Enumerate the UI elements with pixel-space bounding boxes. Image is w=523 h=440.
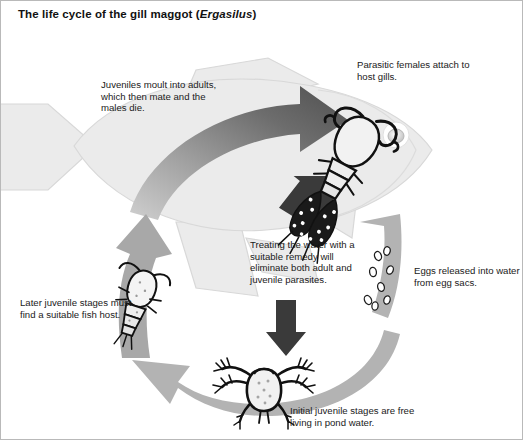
treatment-arrow-down-shape xyxy=(266,300,306,356)
egg xyxy=(369,267,377,277)
label-juveniles-moult: Juveniles moult into adults, which then … xyxy=(101,79,231,114)
label-treating-the-water: Treating the water with a suitable remed… xyxy=(250,239,362,285)
label-eggs-released: Eggs released into water from egg sacs. xyxy=(414,265,523,288)
label-parasitic-females-attach: Parasitic females attach to host gills. xyxy=(357,59,482,82)
life-cycle-figure: The life cycle of the gill maggot (Ergas… xyxy=(0,0,523,440)
egg xyxy=(373,251,382,262)
label-initial-juvenile-stages: Initial juvenile stages are free living … xyxy=(290,405,425,428)
egg-release-arrow xyxy=(360,214,402,318)
label-later-juvenile-stages: Later juvenile stages must find a suitab… xyxy=(20,297,140,320)
egg xyxy=(371,301,378,310)
fish-pelvic-fin xyxy=(176,222,258,296)
egg xyxy=(363,294,373,305)
treatment-arrow-to-juvenile xyxy=(266,300,306,356)
